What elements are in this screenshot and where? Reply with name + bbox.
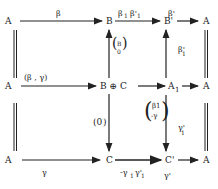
node-C: C bbox=[106, 155, 113, 165]
diagram-canvas: A B B' A A B ⊕ C A 1 A A C C' A β β 1 β'… bbox=[0, 0, 218, 189]
svg-text:): ) bbox=[103, 117, 107, 127]
node-A-bottom-left: A bbox=[4, 155, 12, 165]
label-beta1prime: β' bbox=[130, 9, 137, 18]
svg-text:): ) bbox=[122, 35, 127, 51]
label-beta-gamma: (β , γ) bbox=[24, 73, 47, 82]
node-A-top-right: A bbox=[202, 16, 210, 26]
node-A1: A bbox=[167, 81, 175, 91]
label-0-1-matrix: (0 bbox=[93, 117, 103, 127]
label-beta-prime-right: β' bbox=[168, 9, 175, 18]
label-beta1: β bbox=[118, 9, 123, 18]
node-A-bottom-right: A bbox=[202, 155, 210, 165]
svg-text:): ) bbox=[161, 98, 170, 123]
node-B: B bbox=[106, 16, 113, 26]
node-A-mid-right: A bbox=[202, 81, 210, 91]
svg-text:1: 1 bbox=[181, 129, 185, 136]
svg-text:1: 1 bbox=[182, 50, 186, 57]
node-A1-subscript: 1 bbox=[175, 86, 179, 94]
node-C-prime: C' bbox=[165, 155, 174, 165]
label-matrix-0: 0 bbox=[117, 48, 121, 55]
label-beta1-matrix: β1 bbox=[152, 102, 161, 110]
node-B-oplus-C: B ⊕ C bbox=[100, 81, 127, 91]
label-beta1prime-sub: 1 bbox=[137, 12, 141, 19]
svg-text:1: 1 bbox=[141, 172, 145, 179]
label-neg-gamma-matrix: -γ bbox=[151, 112, 158, 120]
node-A-mid-left: A bbox=[4, 81, 12, 91]
svg-text:1: 1 bbox=[130, 172, 134, 179]
label-beta: β bbox=[56, 9, 61, 18]
label-gamma: γ bbox=[42, 168, 47, 177]
label-neg-gamma1: -γ bbox=[120, 168, 128, 177]
label-gamma-prime: γ' bbox=[164, 171, 171, 180]
node-A-top-left: A bbox=[4, 16, 12, 26]
label-beta1-sub: 1 bbox=[124, 12, 128, 19]
commutative-diagram: A B B' A A B ⊕ C A 1 A A C C' A β β 1 β'… bbox=[0, 0, 218, 189]
